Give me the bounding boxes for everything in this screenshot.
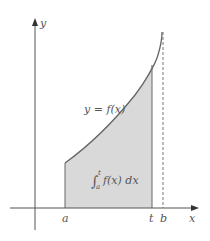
tick-label-b: b [160, 212, 167, 225]
y-axis-label: y [39, 17, 47, 30]
diagram-canvas: y x a t b y = f(x) ∫ t a f(x) dx [0, 0, 210, 241]
integrand: f(x) dx [102, 174, 139, 187]
integral-lower-limit: a [96, 183, 100, 191]
tick-label-a: a [62, 212, 69, 225]
x-axis-label: x [189, 212, 196, 225]
integral-upper-limit: t [98, 169, 101, 177]
tick-label-t: t [149, 212, 154, 225]
curve-label: y = f(x) [83, 103, 125, 116]
integral-diagram: y x a t b y = f(x) ∫ t a f(x) dx [0, 0, 210, 241]
